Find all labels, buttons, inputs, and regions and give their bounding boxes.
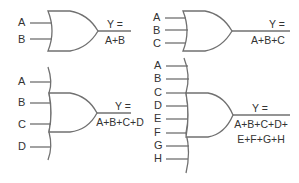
input-label-h: H [154, 153, 162, 164]
input-label-f: F [154, 127, 161, 138]
output-expression: A+B [100, 34, 130, 46]
input-label-d: D [18, 141, 26, 152]
input-label-c: C [18, 119, 26, 130]
output-expression-line-2: E+F+G+H [234, 133, 288, 145]
output-expression: A+B+C [243, 34, 293, 46]
output-label: Y = [108, 100, 138, 112]
or-gate-8-input [166, 58, 290, 173]
output-expression-line-1: A+B+C+D+ [234, 118, 288, 130]
or-gate-4-input [30, 67, 131, 160]
output-label: Y = [245, 102, 275, 114]
or-gates-diagram [0, 0, 299, 183]
input-label-a: A [154, 60, 161, 71]
input-label-a: A [153, 12, 160, 23]
input-label-c: C [154, 87, 162, 98]
input-label-c: C [153, 38, 161, 49]
input-label-b: B [153, 25, 160, 36]
output-label: Y = [100, 18, 130, 30]
output-label: Y = [262, 18, 292, 30]
input-label-g: G [154, 140, 163, 151]
output-expression: A+B+C+D [95, 116, 145, 128]
input-label-b: B [154, 73, 161, 84]
input-label-a: A [18, 17, 25, 28]
input-label-d: D [154, 100, 162, 111]
input-label-e: E [154, 113, 161, 124]
input-label-a: A [18, 76, 25, 87]
input-label-b: B [18, 34, 25, 45]
input-label-b: B [18, 97, 25, 108]
